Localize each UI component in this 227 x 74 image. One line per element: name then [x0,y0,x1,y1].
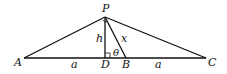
segment-PA [24,17,105,58]
label-a-right: a [155,58,162,71]
label-x: x [121,32,128,45]
label-B: B [121,58,130,71]
label-theta: θ [113,47,119,58]
label-P: P [101,2,110,15]
label-h: h [96,32,103,45]
triangle-diagram: P A C D B h x θ a a [0,0,227,74]
label-D: D [100,58,110,71]
label-a-left: a [71,58,78,71]
label-C: C [208,56,217,69]
label-A: A [13,56,22,69]
